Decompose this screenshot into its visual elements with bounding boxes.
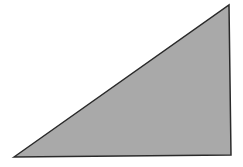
triangle-diagram bbox=[0, 0, 243, 167]
right-triangle-shape bbox=[14, 5, 231, 157]
